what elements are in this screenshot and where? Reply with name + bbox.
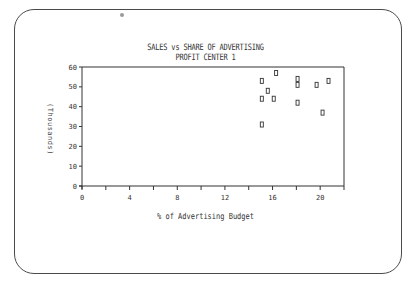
data-point-square-marker — [272, 96, 275, 101]
data-point-square-marker — [296, 76, 299, 81]
y-tick-label: 40 — [69, 103, 77, 111]
data-point-square-marker — [296, 100, 299, 105]
y-tick-label: 0 — [73, 183, 77, 191]
x-tick-label: 0 — [80, 194, 84, 202]
x-tick-label: 4 — [128, 194, 132, 202]
data-point-square-marker — [321, 110, 324, 115]
data-point-square-marker — [315, 82, 318, 87]
data-point-square-marker — [260, 78, 263, 83]
data-point-square-marker — [260, 96, 263, 101]
x-tick-label: 16 — [268, 194, 276, 202]
y-tick-label: 60 — [69, 64, 77, 72]
y-tick-label: 30 — [69, 123, 77, 131]
y-tick-label: 10 — [69, 163, 77, 171]
x-tick-label: 12 — [221, 194, 229, 202]
x-tick-label: 8 — [175, 194, 179, 202]
data-point-square-marker — [275, 70, 278, 75]
x-tick-label: 20 — [316, 194, 324, 202]
y-tick-label: 20 — [69, 143, 77, 151]
data-point-square-marker — [296, 82, 299, 87]
data-point-square-marker — [327, 78, 330, 83]
data-point-square-marker — [260, 122, 263, 127]
y-tick-label: 50 — [69, 83, 77, 91]
data-point-square-marker — [266, 88, 269, 93]
scatter-plot: 0102030405060048121620 — [0, 0, 411, 283]
